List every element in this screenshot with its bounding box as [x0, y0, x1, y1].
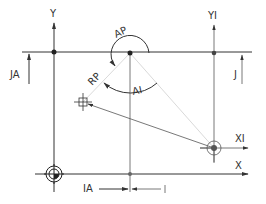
- label-yi: YI: [207, 10, 217, 21]
- label-y: Y: [49, 8, 57, 19]
- pole-left-dot: [52, 50, 57, 55]
- pole-right-dot: [212, 51, 217, 56]
- ai-arc: [104, 83, 157, 93]
- label-ia: IA: [83, 183, 93, 194]
- label-rp: RP: [86, 70, 103, 87]
- label-ai: AI: [131, 84, 143, 97]
- bottom-intersection-dot: [128, 172, 132, 176]
- diagram-canvas: Y YI X XI JA J IA I AP RP AI: [0, 0, 266, 204]
- label-xi: XI: [235, 133, 245, 144]
- pole-center-dot: [128, 51, 133, 56]
- label-ap: AP: [112, 24, 128, 39]
- radius-line: [88, 104, 214, 148]
- label-x: X: [235, 160, 242, 171]
- label-ja: JA: [9, 69, 20, 80]
- angle-arcs: [104, 35, 157, 93]
- construction-lines: [83, 53, 214, 148]
- workpiece-origin-marker: [44, 164, 64, 184]
- label-j: J: [233, 69, 237, 80]
